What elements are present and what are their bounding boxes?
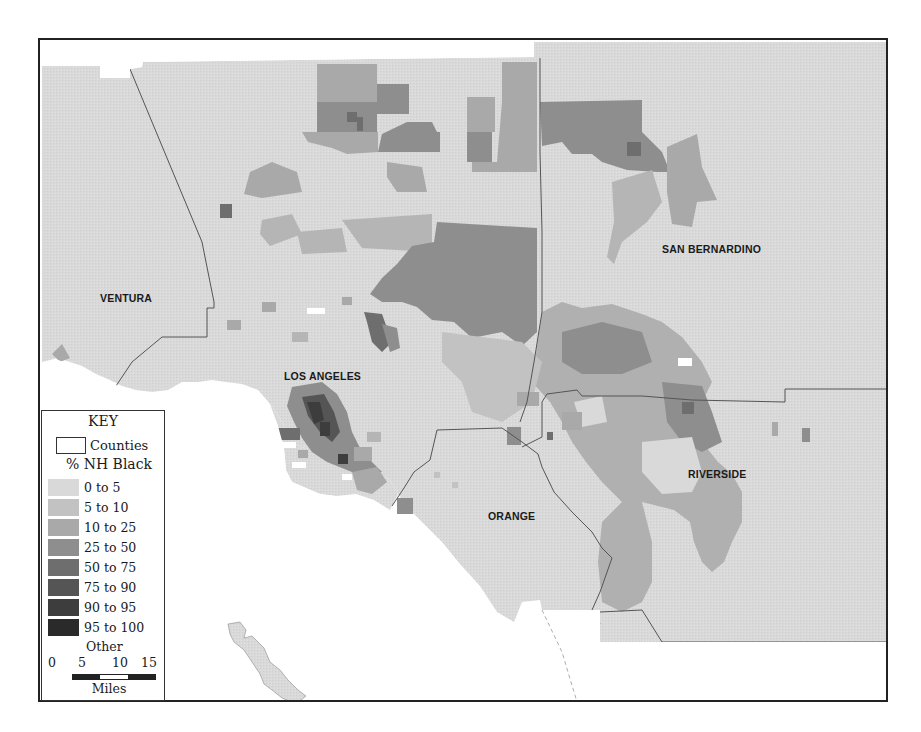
legend-other-label: Other xyxy=(86,639,123,654)
legend-swatch xyxy=(48,479,79,496)
legend-swatch xyxy=(48,519,79,536)
legend-variable-title: % NH Black xyxy=(42,456,164,472)
legend-class-label: 50 to 75 xyxy=(84,560,136,575)
southern-white-area xyxy=(600,642,888,702)
scale-tick: 15 xyxy=(141,655,157,670)
legend-swatch xyxy=(48,579,79,596)
legend-class-label: 75 to 90 xyxy=(84,580,136,595)
scale-bar-unit: Miles xyxy=(42,681,164,696)
county-label-orange: ORANGE xyxy=(488,510,535,522)
legend-counties-row: Counties xyxy=(56,437,148,454)
legend-class-row: 90 to 95 xyxy=(48,597,144,617)
legend-class-row: 10 to 25 xyxy=(48,517,144,537)
county-label-ventura: VENTURA xyxy=(100,292,152,304)
counties-outline-swatch xyxy=(56,437,86,454)
legend-swatch xyxy=(48,619,79,636)
scale-tick: 0 xyxy=(48,655,56,670)
legend-class-label: 25 to 50 xyxy=(84,540,136,555)
legend-class-label: 0 to 5 xyxy=(84,480,120,495)
legend-class-row: 5 to 10 xyxy=(48,497,144,517)
legend-class-row: 75 to 90 xyxy=(48,577,144,597)
legend-swatch xyxy=(48,599,79,616)
legend-class-label: 10 to 25 xyxy=(84,520,136,535)
choropleth-map xyxy=(40,40,888,702)
legend-class-row: 25 to 50 xyxy=(48,537,144,557)
legend-swatch xyxy=(48,539,79,556)
legend-class-label: 90 to 95 xyxy=(84,600,136,615)
scale-tick: 10 xyxy=(112,655,128,670)
legend-swatch xyxy=(48,499,79,516)
legend-title: KEY xyxy=(42,413,164,429)
legend-class-label: 95 to 100 xyxy=(84,620,144,635)
scale-tick: 5 xyxy=(78,655,86,670)
scale-bar xyxy=(72,674,156,680)
legend-swatch xyxy=(48,559,79,576)
legend-class-row: 50 to 75 xyxy=(48,557,144,577)
legend-classes: 0 to 5 5 to 10 10 to 25 25 to 50 50 to 7… xyxy=(48,477,144,637)
county-label-los-angeles: LOS ANGELES xyxy=(284,370,361,382)
orange-sd-white xyxy=(532,610,600,702)
legend-counties-label: Counties xyxy=(90,438,148,453)
county-label-san-bernardino: SAN BERNARDINO xyxy=(662,243,761,255)
map-frame: VENTURA LOS ANGELES SAN BERNARDINO RIVER… xyxy=(38,38,888,702)
legend-class-label: 5 to 10 xyxy=(84,500,128,515)
legend-class-row: 0 to 5 xyxy=(48,477,144,497)
county-label-riverside: RIVERSIDE xyxy=(688,468,746,480)
legend-class-row: 95 to 100 xyxy=(48,617,144,637)
map-legend: KEY Counties % NH Black 0 to 5 5 to 10 1… xyxy=(41,410,165,701)
